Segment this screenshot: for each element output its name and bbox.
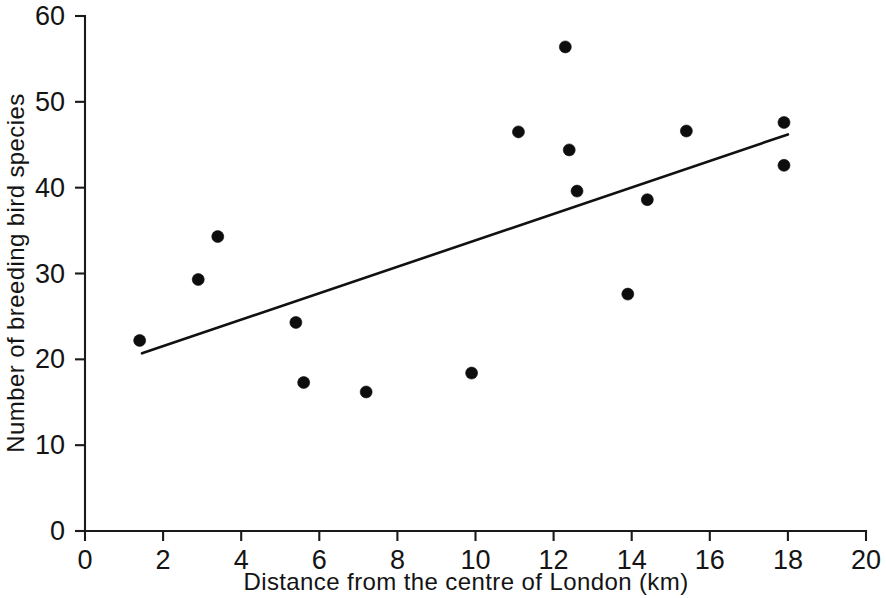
data-point-9: [563, 144, 575, 156]
data-point-3: [290, 316, 302, 328]
y-tick-label-40: 40: [35, 173, 65, 203]
y-tick-label-0: 0: [50, 516, 65, 546]
y-tick-label-30: 30: [35, 259, 65, 289]
scatter-plot-figure: 0102030405060 02468101214161820 Distance…: [0, 0, 886, 598]
data-series: [134, 41, 790, 398]
data-point-7: [512, 126, 524, 138]
x-tick-label-0: 0: [77, 545, 92, 575]
y-axis-title: Number of breeding bird species: [2, 93, 29, 452]
y-tick-label-60: 60: [35, 1, 65, 31]
data-point-10: [571, 185, 583, 197]
x-tick-label-2: 2: [156, 545, 171, 575]
y-tick-label-10: 10: [35, 430, 65, 460]
data-point-14: [778, 116, 790, 128]
x-axis-ticks: [85, 531, 866, 541]
data-point-12: [641, 194, 653, 206]
regression-trend-line: [142, 134, 788, 353]
data-point-15: [778, 159, 790, 171]
data-point-2: [212, 231, 224, 243]
y-tick-label-20: 20: [35, 344, 65, 374]
data-point-1: [192, 274, 204, 286]
data-point-0: [134, 334, 146, 346]
chart-canvas: 0102030405060 02468101214161820 Distance…: [0, 0, 886, 598]
y-axis-ticks: [75, 16, 85, 531]
data-point-13: [680, 125, 692, 137]
y-axis-tick-labels: 0102030405060: [35, 1, 65, 546]
x-tick-label-20: 20: [851, 545, 881, 575]
data-point-11: [622, 288, 634, 300]
x-axis-title: Distance from the centre of London (km): [243, 568, 688, 595]
x-tick-label-18: 18: [773, 545, 803, 575]
data-point-5: [360, 386, 372, 398]
data-point-8: [559, 41, 571, 53]
data-point-6: [466, 367, 478, 379]
y-tick-label-50: 50: [35, 87, 65, 117]
x-tick-label-16: 16: [695, 545, 725, 575]
data-point-4: [298, 377, 310, 389]
